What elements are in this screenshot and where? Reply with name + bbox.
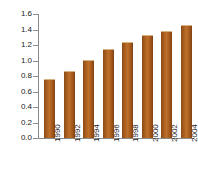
y-axis-tick — [33, 138, 38, 139]
y-axis-tick-label-wrap: 0.4 — [0, 103, 32, 112]
x-axis-label: 1990 — [53, 108, 62, 142]
x-axis-label: 2000 — [151, 108, 160, 142]
y-axis-tick-label-wrap: 0.2 — [0, 119, 32, 128]
y-axis-tick-label: 1.4 — [2, 26, 32, 34]
y-axis-tick-label-wrap: 1.2 — [0, 41, 32, 50]
y-axis-tick-label-wrap: 0.6 — [0, 88, 32, 97]
y-axis-tick-label: 0.6 — [2, 88, 32, 96]
y-axis-tick-label-wrap: 1.4 — [0, 26, 32, 35]
x-axis-label: 2004 — [190, 108, 198, 142]
y-axis-tick-label: 1.0 — [2, 57, 32, 65]
y-axis-tick-label-wrap: 1.0 — [0, 57, 32, 66]
y-axis-tick-label: 1.6 — [2, 10, 32, 18]
y-axis-tick-label-wrap: 0.8 — [0, 72, 32, 81]
x-axis-label: 2002 — [170, 108, 179, 142]
y-axis-tick-label: 0.2 — [2, 119, 32, 127]
y-axis-tick-label-wrap: 1.6 — [0, 10, 32, 19]
x-axis-label: 1998 — [131, 108, 140, 142]
x-axis-label: 1994 — [92, 108, 101, 142]
y-axis-tick-label: 1.2 — [2, 41, 32, 49]
y-axis-tick-label: 0.8 — [2, 72, 32, 80]
x-axis-label: 1992 — [73, 108, 82, 142]
y-axis-tick-label: 0.4 — [2, 103, 32, 111]
y-axis-tick-label: 0.0 — [2, 134, 32, 142]
bar-chart: Millions 1.61.41.21.00.80.60.40.20.0 199… — [0, 0, 198, 173]
y-axis-tick-label-wrap: 0.0 — [0, 134, 32, 143]
x-axis-label: 1996 — [112, 108, 121, 142]
